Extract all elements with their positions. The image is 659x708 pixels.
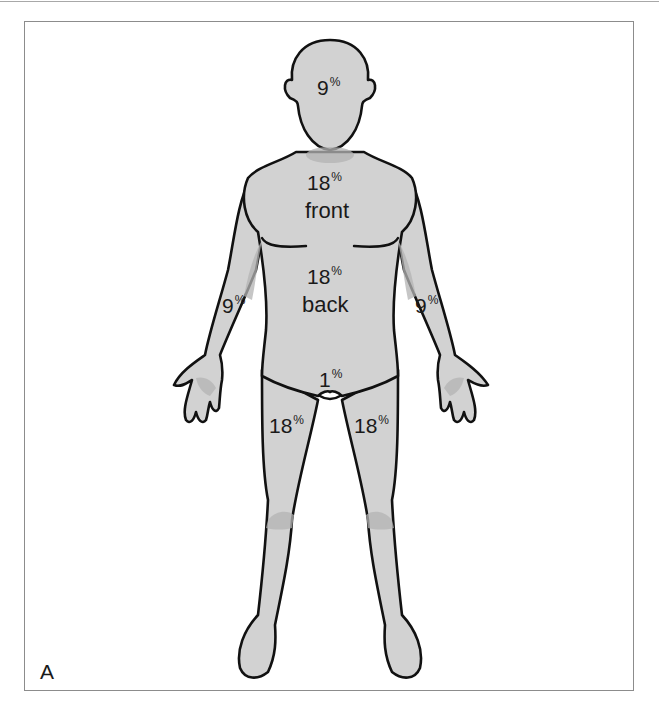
torso-back-caption: back [302,294,348,316]
percent-sign: % [331,264,342,278]
percent-sign: % [235,293,246,307]
percent-sign: % [378,413,389,427]
percent-sign: % [331,170,342,184]
left-arm-label: 9% [415,295,438,316]
panel-label: A [40,660,54,684]
head-label: 9% [317,77,340,98]
torso-front-value: 18 [307,171,330,194]
torso-back-label: 18% [307,266,342,287]
groin-line [320,396,340,399]
right-leg-value: 18 [269,414,292,437]
body-outline-illustration [0,0,659,708]
perineum-value: 1 [319,368,331,391]
right-arm-label: 9% [222,295,245,316]
percent-sign: % [332,367,343,381]
torso-front-label: 18% [307,172,342,193]
percent-sign: % [293,413,304,427]
percent-sign: % [428,293,439,307]
right-leg-label: 18% [269,415,304,436]
torso-back-value: 18 [307,265,330,288]
left-leg-label: 18% [354,415,389,436]
percent-sign: % [330,75,341,89]
right-arm-value: 9 [222,294,234,317]
perineum-label: 1% [319,369,342,390]
left-leg-value: 18 [354,414,377,437]
left-arm-value: 9 [415,294,427,317]
torso-front-caption: front [305,200,349,222]
head-value: 9 [317,76,329,99]
